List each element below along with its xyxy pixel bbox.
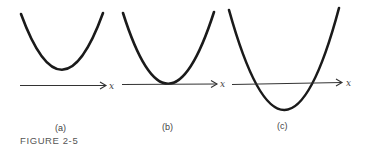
parabola-b — [123, 12, 214, 84]
x-axis-b — [122, 84, 217, 85]
parabola-c — [229, 8, 339, 110]
parabola-a — [21, 13, 103, 70]
axis-label-a: x — [109, 81, 114, 91]
figure-diagram: x (a) x (b) x (c) — [0, 0, 366, 150]
panel-label-b: (b) — [162, 122, 173, 132]
panel-b: x (b) — [122, 12, 225, 132]
panel-a: x (a) — [20, 13, 114, 133]
panel-label-c: (c) — [277, 121, 288, 131]
panel-label-a: (a) — [55, 123, 66, 133]
panel-c: x (c) — [229, 8, 351, 131]
axis-label-c: x — [346, 78, 351, 88]
figure-canvas: x (a) x (b) x (c) FIGURE 2-5 — [0, 0, 366, 150]
axis-label-b: x — [220, 79, 225, 89]
figure-caption: FIGURE 2-5 — [20, 135, 78, 146]
x-axis-c — [232, 83, 342, 85]
